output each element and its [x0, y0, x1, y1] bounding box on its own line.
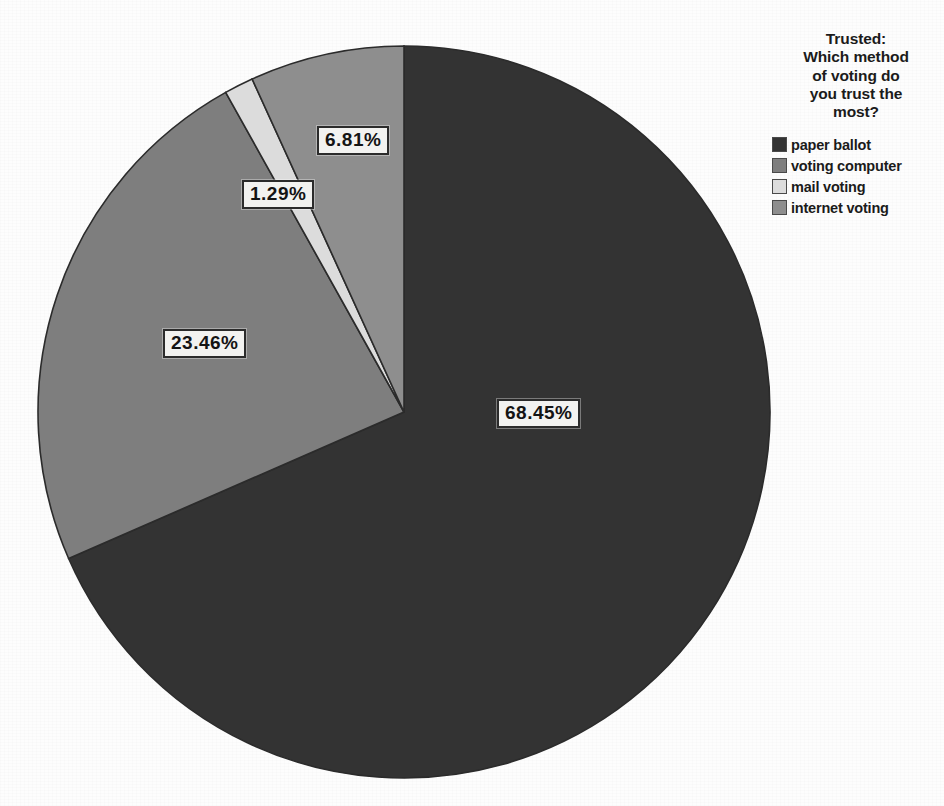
slice-label-mail-voting: 1.29% [242, 180, 314, 209]
legend-label-paper-ballot: paper ballot [791, 137, 871, 153]
legend-swatch-icon-mail-voting [772, 179, 787, 194]
legend-item-voting-computer[interactable]: voting computer [772, 156, 940, 175]
legend-label-voting-computer: voting computer [791, 158, 902, 174]
chart-legend: Trusted: Which method of voting do you t… [772, 30, 940, 219]
legend-label-mail-voting: mail voting [791, 179, 865, 195]
pie-chart-area [0, 0, 800, 806]
legend-item-internet-voting[interactable]: internet voting [772, 198, 940, 217]
legend-swatch-icon-paper-ballot [772, 137, 787, 152]
slice-label-internet-voting: 6.81% [317, 126, 389, 155]
legend-title: Trusted: Which method of voting do you t… [772, 30, 940, 121]
legend-swatch-icon-internet-voting [772, 200, 787, 215]
pie-chart-svg [0, 0, 800, 806]
pie-chart-page: 68.45% 23.46% 1.29% 6.81% Trusted: Which… [0, 0, 944, 806]
pie-slices-group [38, 46, 770, 778]
slice-label-paper-ballot: 68.45% [497, 399, 580, 428]
legend-swatch-icon-voting-computer [772, 158, 787, 173]
legend-item-mail-voting[interactable]: mail voting [772, 177, 940, 196]
legend-item-paper-ballot[interactable]: paper ballot [772, 135, 940, 154]
slice-label-voting-computer: 23.46% [163, 329, 246, 358]
legend-label-internet-voting: internet voting [791, 200, 889, 216]
